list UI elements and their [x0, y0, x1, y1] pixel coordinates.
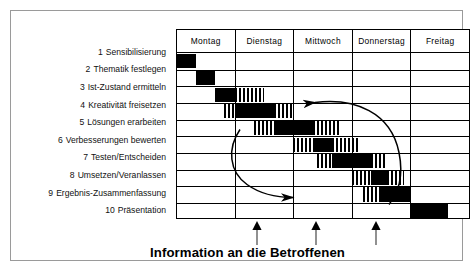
gantt-body — [177, 53, 469, 218]
task-number: 6 — [58, 135, 63, 145]
gantt-bar-task-5-seg-1 — [254, 121, 273, 135]
gantt-chart: Montag Dienstag Mittwoch Donnerstag Frei… — [176, 29, 470, 219]
gridline-horizontal — [177, 70, 469, 71]
task-label: Präsentation — [118, 205, 166, 215]
gantt-bar-task-9-seg-1 — [363, 187, 380, 201]
task-label-row: 2 Thematik festlegen — [23, 61, 166, 79]
task-label-row: 8 Umsetzen/Veranlassen — [23, 166, 166, 184]
task-label-row: 7 Testen/Entscheiden — [23, 149, 166, 167]
gridline-horizontal — [177, 170, 469, 171]
task-number: 5 — [79, 117, 84, 127]
gridline-horizontal — [177, 103, 469, 104]
gantt-bar-task-6-seg-1 — [293, 138, 312, 152]
gantt-bar-task-4-seg-1 — [224, 104, 236, 118]
task-number: 10 — [105, 205, 115, 215]
day-header-donnerstag: Donnerstag — [353, 30, 412, 52]
gantt-bar-task-3-seg-2 — [235, 88, 264, 102]
gantt-bar-task-7-seg-3 — [371, 154, 387, 168]
day-header-dienstag: Dienstag — [236, 30, 295, 52]
gridline-horizontal — [177, 86, 469, 87]
gantt-bar-task-4-seg-2 — [235, 104, 273, 118]
gantt-bar-task-1-seg-1 — [177, 54, 196, 68]
feedback-arrow-to-row7 — [232, 130, 293, 198]
gantt-bar-task-2-seg-1 — [196, 71, 215, 85]
task-number: 2 — [86, 64, 91, 74]
gantt-bar-task-8-seg-1 — [352, 171, 371, 185]
milestone-arrows — [176, 219, 470, 245]
gridline-horizontal — [177, 136, 469, 137]
gantt-bar-task-9-seg-2 — [381, 187, 410, 201]
task-label-row: 4 Kreativität freisetzen — [23, 96, 166, 114]
task-label-row: 3 Ist-Zustand ermitteln — [23, 78, 166, 96]
task-label-row: 5 Lösungen erarbeiten — [23, 113, 166, 131]
day-header-mittwoch: Mittwoch — [294, 30, 353, 52]
task-number: 8 — [70, 170, 75, 180]
day-header-montag: Montag — [177, 30, 236, 52]
task-label: Kreativität freisetzen — [88, 100, 166, 110]
task-label-row: 1 Sensibilisierung — [23, 43, 166, 61]
task-label-row: 6 Verbesserungen bewerten — [23, 131, 166, 149]
gridline-horizontal — [177, 203, 469, 204]
milestone-arrow-1 — [252, 221, 261, 245]
gantt-bar-task-8-seg-2 — [371, 171, 387, 185]
task-label: Ist-Zustand ermitteln — [88, 82, 166, 92]
gridline-horizontal — [177, 153, 469, 154]
gantt-bar-task-4-seg-3 — [274, 104, 294, 118]
gantt-bar-task-10-seg-1 — [410, 204, 448, 218]
task-number: 7 — [83, 152, 88, 162]
day-header-row: Montag Dienstag Mittwoch Donnerstag Frei… — [177, 30, 469, 53]
milestone-arrow-3 — [371, 221, 380, 245]
task-label: Umsetzen/Veranlassen — [78, 170, 166, 180]
gantt-bar-task-6-seg-3 — [332, 138, 358, 152]
task-label: Thematik festlegen — [93, 64, 166, 74]
gantt-bar-task-6-seg-2 — [313, 138, 332, 152]
gantt-bar-task-3-seg-1 — [215, 88, 235, 102]
task-label: Ergebnis-Zusammenfassung — [56, 188, 166, 198]
gridline-horizontal — [177, 120, 469, 121]
chart-caption: Information an die Betroffenen — [21, 245, 474, 260]
milestone-arrow-2 — [311, 221, 320, 245]
task-label: Verbesserungen bewerten — [66, 135, 166, 145]
task-label: Sensibilisierung — [106, 47, 166, 57]
task-label-row: 9 Ergebnis-Zusammenfassung — [23, 184, 166, 202]
gantt-bar-task-8-seg-3 — [387, 171, 404, 185]
task-label: Testen/Entscheiden — [91, 152, 166, 162]
task-label-row: 10 Präsentation — [23, 201, 166, 219]
task-label-column: 1 Sensibilisierung 2 Thematik festlegen … — [23, 43, 166, 219]
task-number: 4 — [80, 100, 85, 110]
diagram-frame: 1 Sensibilisierung 2 Thematik festlegen … — [10, 10, 463, 261]
gantt-bar-task-7-seg-1 — [317, 154, 332, 168]
task-number: 3 — [80, 82, 85, 92]
gridline-horizontal — [177, 186, 469, 187]
task-label: Lösungen erarbeiten — [87, 117, 166, 127]
task-number: 9 — [48, 188, 53, 198]
task-number: 1 — [98, 47, 103, 57]
gantt-bar-task-5-seg-3 — [313, 121, 340, 135]
day-header-freitag: Freitag — [411, 30, 469, 52]
